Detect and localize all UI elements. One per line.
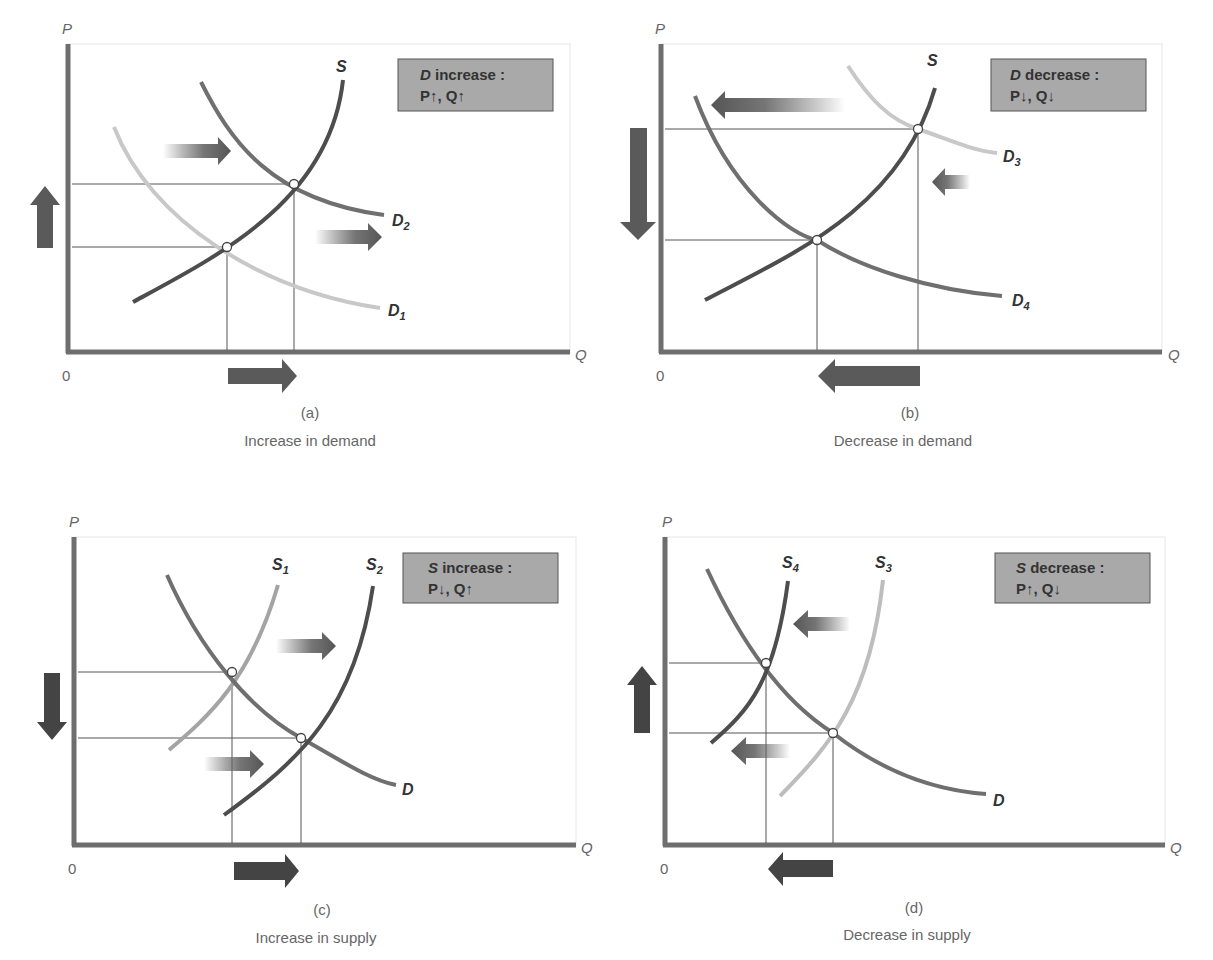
curve-label-s3: S3 bbox=[875, 554, 892, 574]
legend-line-2: P↑, Q↑ bbox=[420, 87, 465, 104]
origin-label: 0 bbox=[660, 860, 668, 877]
quantity-left-arrow-icon bbox=[768, 852, 833, 886]
equilibrium-point-2 bbox=[290, 180, 299, 189]
curve-label-d: D bbox=[402, 781, 414, 798]
supply-curve-s3 bbox=[780, 580, 883, 796]
price-up-arrow-icon bbox=[30, 186, 60, 248]
panel-caption: Decrease in demand bbox=[834, 432, 972, 449]
legend-box: S increase : P↓, Q↑ bbox=[403, 553, 558, 603]
figure-canvas: P Q 0 S D2 D1 D increase : P↑, Q↑ (a) In… bbox=[0, 0, 1213, 960]
legend-line-2: P↓, Q↑ bbox=[428, 580, 473, 597]
origin-label: 0 bbox=[656, 367, 664, 384]
curve-label-d2: D2 bbox=[392, 212, 410, 232]
demand-curve-d bbox=[707, 569, 986, 794]
q-axis-label: Q bbox=[1168, 346, 1180, 363]
equilibrium-point-1 bbox=[223, 243, 232, 252]
legend-box: S decrease : P↑, Q↓ bbox=[995, 553, 1150, 603]
legend-line-2: P↓, Q↓ bbox=[1010, 87, 1055, 104]
quantity-right-arrow-icon bbox=[234, 854, 299, 888]
quantity-right-arrow-icon bbox=[228, 359, 297, 393]
origin-label: 0 bbox=[68, 860, 76, 877]
equilibrium-point-1 bbox=[762, 659, 771, 668]
legend-box: D increase : P↑, Q↑ bbox=[398, 59, 553, 111]
equilibrium-point-2 bbox=[813, 236, 822, 245]
supply-curve-s bbox=[133, 80, 343, 302]
shift-arrow-left-icon bbox=[731, 737, 790, 765]
price-down-arrow-icon bbox=[620, 128, 656, 240]
supply-curve-s4 bbox=[711, 581, 788, 743]
curve-label-s2: S2 bbox=[366, 556, 383, 576]
curve-label-d4: D4 bbox=[1012, 292, 1030, 312]
panel-d: P Q 0 S4 S3 D S decrease : P↑, Q↓ (d) De… bbox=[627, 513, 1182, 943]
legend-line-1: D decrease : bbox=[1010, 66, 1099, 83]
shift-arrow-left-icon bbox=[711, 91, 845, 119]
shift-arrow-left-icon bbox=[793, 610, 850, 638]
panel-letter: (d) bbox=[905, 899, 923, 916]
curve-label-d1: D1 bbox=[388, 302, 406, 322]
q-axis-label: Q bbox=[581, 839, 593, 856]
shift-arrow-right-icon bbox=[204, 750, 264, 778]
legend-line-1: D increase : bbox=[420, 66, 505, 83]
price-down-arrow-icon bbox=[37, 673, 67, 740]
curve-label-s1: S1 bbox=[272, 556, 289, 576]
shift-arrow-right-icon bbox=[163, 137, 231, 165]
panel-a: P Q 0 S D2 D1 D increase : P↑, Q↑ (a) In… bbox=[30, 20, 587, 449]
equilibrium-point-2 bbox=[297, 734, 306, 743]
legend-line-2: P↑, Q↓ bbox=[1016, 580, 1061, 597]
p-axis-label: P bbox=[69, 513, 79, 530]
equilibrium-point-2 bbox=[829, 729, 838, 738]
curve-label-s4: S4 bbox=[782, 554, 799, 574]
curve-label-d: D bbox=[993, 792, 1005, 809]
legend-line-1: S decrease : bbox=[1016, 559, 1104, 576]
panel-c: P Q 0 S1 S2 D S increase : P↓, Q↑ (c) In… bbox=[37, 513, 593, 946]
panel-letter: (b) bbox=[901, 404, 919, 421]
panel-caption: Increase in supply bbox=[256, 929, 377, 946]
curve-label-s: S bbox=[927, 52, 938, 69]
q-axis-label: Q bbox=[575, 346, 587, 363]
equilibrium-point-1 bbox=[914, 125, 923, 134]
panel-caption: Decrease in supply bbox=[843, 926, 971, 943]
origin-label: 0 bbox=[62, 367, 70, 384]
legend-box: D decrease : P↓, Q↓ bbox=[991, 59, 1146, 111]
price-up-arrow-icon bbox=[627, 666, 657, 733]
curve-label-d3: D3 bbox=[1003, 148, 1021, 168]
panel-b: P Q 0 S D3 D4 D decrease : P↓, Q↓ (b) De… bbox=[620, 20, 1180, 449]
demand-curve-d4 bbox=[695, 96, 1002, 296]
shift-arrow-left-icon bbox=[932, 168, 970, 196]
panel-letter: (c) bbox=[313, 901, 331, 918]
shift-arrow-right-icon bbox=[315, 223, 382, 251]
quantity-left-arrow-icon bbox=[818, 359, 920, 393]
curve-label-s: S bbox=[336, 58, 347, 75]
supply-curve-s2 bbox=[224, 586, 373, 815]
demand-curve-d3 bbox=[848, 66, 997, 153]
legend-line-1: S increase : bbox=[428, 559, 512, 576]
p-axis-label: P bbox=[655, 20, 665, 37]
demand-curve-d bbox=[167, 575, 396, 785]
p-axis-label: P bbox=[62, 20, 72, 37]
q-axis-label: Q bbox=[1170, 839, 1182, 856]
equilibrium-point-1 bbox=[228, 668, 237, 677]
panel-letter: (a) bbox=[301, 404, 319, 421]
shift-arrow-right-icon bbox=[276, 632, 336, 660]
p-axis-label: P bbox=[662, 513, 672, 530]
panel-caption: Increase in demand bbox=[244, 432, 376, 449]
